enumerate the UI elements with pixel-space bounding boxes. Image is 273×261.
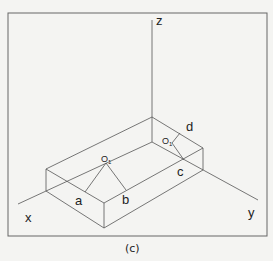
- o1-letter: O: [101, 154, 108, 164]
- y-axis: [152, 142, 258, 200]
- point-b-label: b: [122, 192, 129, 207]
- z-axis-label: z: [156, 13, 163, 28]
- x-axis: [18, 142, 152, 204]
- point-o2-label: O1: [162, 136, 173, 147]
- point-a-label: a: [75, 193, 83, 208]
- o1-subscript: 1: [108, 159, 112, 165]
- o2-to-c-line: [172, 143, 184, 160]
- point-c-label: c: [177, 164, 184, 179]
- figure-caption: (c): [125, 242, 140, 255]
- isometric-box-diagram: z x y a b c d O1 O1 (c): [0, 0, 273, 261]
- o2-to-d-line: [172, 133, 180, 143]
- box-top-face: [46, 117, 203, 203]
- point-d-label: d: [186, 119, 193, 134]
- o1-to-a-line: [85, 163, 106, 192]
- x-axis-label: x: [25, 210, 32, 225]
- o1-to-b-line: [106, 163, 126, 190]
- box-bottom-right-edge: [104, 170, 203, 228]
- o2-letter: O: [162, 136, 169, 146]
- point-o1-label: O1: [101, 154, 112, 165]
- y-axis-label: y: [248, 205, 255, 220]
